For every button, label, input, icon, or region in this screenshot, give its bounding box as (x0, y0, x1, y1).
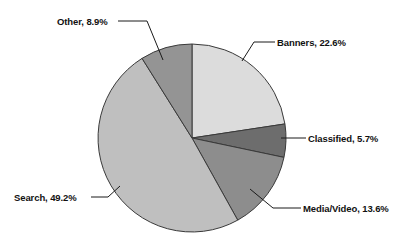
pie-slices (98, 44, 286, 232)
pie-label-search: Search, 49.2% (14, 192, 77, 203)
pie-chart-figure: Other, 8.9% Banners, 22.6% Classified, 5… (0, 0, 413, 250)
pie-slice-banners[interactable] (192, 44, 285, 138)
pie-label-classified: Classified, 5.7% (308, 133, 378, 144)
pie-label-media-video: Media/Video, 13.6% (303, 203, 389, 214)
pie-label-other: Other, 8.9% (57, 16, 108, 27)
pie-label-banners: Banners, 22.6% (277, 37, 346, 48)
leader-line-banners (242, 42, 275, 61)
